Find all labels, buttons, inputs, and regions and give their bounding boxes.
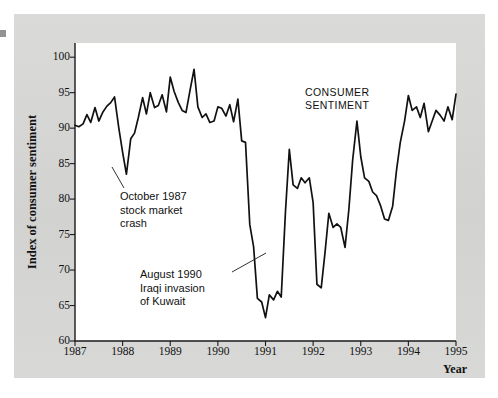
- annotation-october-1987-crash: October 1987stock marketcrash: [120, 190, 230, 231]
- annotation-line: Iraqi invasion: [140, 282, 260, 296]
- series-inline-label: CONSUMERSENTIMENT: [305, 86, 425, 111]
- annotation-line: October 1987: [120, 190, 230, 204]
- annotation-line: of Kuwait: [140, 295, 260, 309]
- chart-svg: [0, 0, 498, 398]
- annotation-august-1990-invasion: August 1990Iraqi invasionof Kuwait: [140, 268, 260, 309]
- figure-page: Index of consumer sentiment 606570758085…: [0, 0, 498, 398]
- annotation-line: crash: [120, 217, 230, 231]
- annotation-leader-1987: [112, 167, 124, 188]
- series-label-line: CONSUMER: [305, 86, 425, 99]
- series-label-line: SENTIMENT: [305, 99, 425, 112]
- annotation-line: August 1990: [140, 268, 260, 282]
- annotation-line: stock market: [120, 204, 230, 218]
- x-axis-title: Year: [427, 362, 483, 377]
